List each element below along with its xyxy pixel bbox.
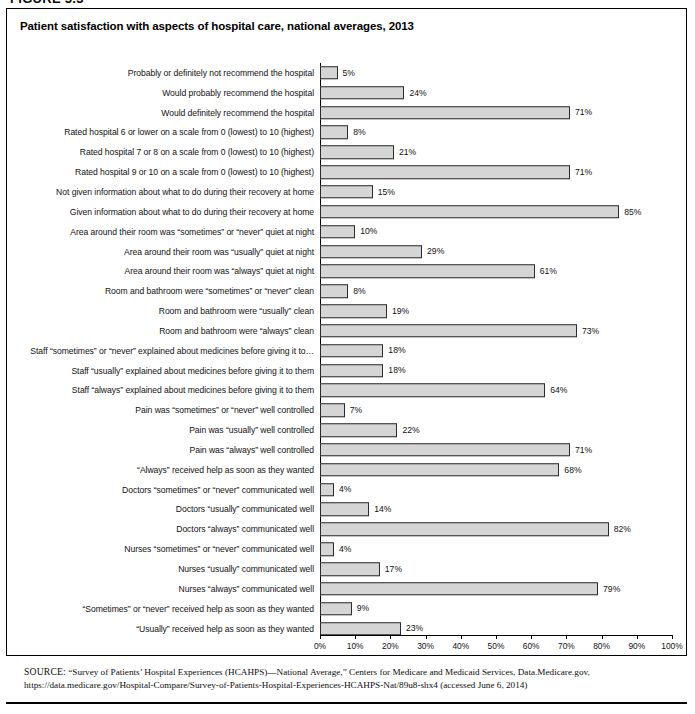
bar-track: 18%: [320, 344, 682, 358]
bar-category-label: Pain was “always” well controlled: [190, 445, 314, 455]
x-axis-tick-label: 70%: [558, 641, 575, 651]
bar-value-label: 19%: [392, 306, 409, 316]
bar-value-label: 71%: [575, 167, 592, 177]
bar: [320, 106, 570, 120]
x-axis-tick-label: 60%: [523, 641, 540, 651]
bar-track: 79%: [320, 582, 682, 596]
bar-category-label: Staff “always” explained about medicines…: [72, 385, 314, 395]
x-axis-tick: [672, 635, 673, 639]
bar-category-label: Doctors “sometimes” or “never” communica…: [122, 485, 314, 495]
bar-track: 17%: [320, 562, 682, 576]
x-axis-tick: [390, 635, 391, 639]
bar: [320, 66, 338, 80]
bar-value-label: 10%: [360, 227, 377, 237]
bottom-rule: [6, 702, 687, 704]
bar-value-label: 4%: [339, 544, 351, 554]
bar-row: Room and bathroom were “usually” clean19…: [7, 301, 688, 321]
bar-row: Given information about what to do durin…: [7, 202, 688, 222]
bar-category-label: “Sometimes” or “never” received help as …: [82, 604, 314, 614]
bar-row: Nurses “sometimes” or “never” communicat…: [7, 539, 688, 559]
bar: [320, 245, 422, 259]
bar-category-label: Room and bathroom were “always” clean: [159, 326, 314, 336]
bar-category-label: Nurses “sometimes” or “never” communicat…: [124, 544, 314, 554]
bar-track: 4%: [320, 542, 682, 556]
bar-category-label: Area around their room was “usually” qui…: [124, 247, 314, 257]
bar: [320, 165, 570, 179]
bar-value-label: 61%: [540, 266, 557, 276]
bar: [320, 205, 619, 219]
bar: [320, 344, 383, 358]
bar: [320, 503, 369, 517]
bar-track: 14%: [320, 503, 682, 517]
bar-value-label: 79%: [603, 584, 620, 594]
bar-row: Room and bathroom were “always” clean73%: [7, 321, 688, 341]
bar-value-label: 8%: [353, 286, 365, 296]
bar-row: Rated hospital 6 or lower on a scale fro…: [7, 123, 688, 143]
bar: [320, 622, 401, 636]
bar-value-label: 18%: [388, 346, 405, 356]
bar-row: Pain was “usually” well controlled22%: [7, 420, 688, 440]
bar-value-label: 8%: [353, 127, 365, 137]
bar-category-label: Staff “usually” explained about medicine…: [71, 366, 314, 376]
bar-category-label: Given information about what to do durin…: [70, 207, 314, 217]
bar: [320, 86, 404, 100]
bar-row: Nurses “usually” communicated well17%: [7, 559, 688, 579]
bar-value-label: 15%: [378, 187, 395, 197]
bar-track: 5%: [320, 66, 682, 80]
bar-row: Staff “usually” explained about medicine…: [7, 361, 688, 381]
bar-value-label: 9%: [357, 604, 369, 614]
bar-category-label: Probably or definitely not recommend the…: [128, 68, 314, 78]
bar-track: 22%: [320, 423, 682, 437]
figure-number: FIGURE 5.3: [10, 0, 84, 6]
bar: [320, 304, 387, 318]
bar: [320, 523, 609, 537]
bar-row: Pain was “sometimes” or “never” well con…: [7, 400, 688, 420]
bar: [320, 404, 345, 418]
bar-track: 21%: [320, 146, 682, 160]
bar: [320, 146, 394, 160]
bar-value-label: 71%: [575, 445, 592, 455]
bar-category-label: Doctors “always” communicated well: [176, 524, 314, 534]
bar-row: Doctors “usually” communicated well14%: [7, 500, 688, 520]
x-axis-tick-label: 80%: [593, 641, 610, 651]
bar-row: Probably or definitely not recommend the…: [7, 63, 688, 83]
x-axis-tick-label: 20%: [382, 641, 399, 651]
bar-row: Nurses “always” communicated well79%: [7, 579, 688, 599]
x-axis-tick: [355, 635, 356, 639]
bar-value-label: 22%: [402, 425, 419, 435]
bar: [320, 126, 348, 140]
bar-track: 71%: [320, 165, 682, 179]
x-axis-tick-label: 50%: [488, 641, 505, 651]
bar-track: 82%: [320, 523, 682, 537]
bar-track: 23%: [320, 622, 682, 636]
bar-category-label: Would definitely recommend the hospital: [161, 108, 314, 118]
bar-track: 64%: [320, 384, 682, 398]
source-text: “Survey of Patients’ Hospital Experience…: [24, 667, 590, 690]
x-axis-tick-label: 0%: [314, 641, 326, 651]
bar-track: 18%: [320, 364, 682, 378]
bar-category-label: Rated hospital 6 or lower on a scale fro…: [64, 127, 314, 137]
bar-row: Pain was “always” well controlled71%: [7, 440, 688, 460]
bar-value-label: 29%: [427, 247, 444, 257]
bar-category-label: Nurses “usually” communicated well: [178, 564, 314, 574]
bar: [320, 384, 545, 398]
bar: [320, 324, 577, 338]
bar-value-label: 5%: [343, 68, 355, 78]
bar-category-label: Area around their room was “sometimes” o…: [70, 227, 314, 237]
bar-row: Area around their room was “usually” qui…: [7, 242, 688, 262]
bar-rows: Probably or definitely not recommend the…: [7, 63, 688, 638]
bar: [320, 562, 380, 576]
bar-row: “Always” received help as soon as they w…: [7, 460, 688, 480]
bar-value-label: 71%: [575, 108, 592, 118]
bar-row: Would probably recommend the hospital24%: [7, 83, 688, 103]
bar-value-label: 7%: [350, 405, 362, 415]
bar-value-label: 4%: [339, 485, 351, 495]
bar-track: 9%: [320, 602, 682, 616]
bar-track: 10%: [320, 225, 682, 239]
bar-row: Not given information about what to do d…: [7, 182, 688, 202]
bar: [320, 364, 383, 378]
source-label: SOURCE:: [24, 666, 66, 677]
bar-row: Area around their room was “sometimes” o…: [7, 222, 688, 242]
x-axis-tick-label: 10%: [347, 641, 364, 651]
x-axis-tick: [602, 635, 603, 639]
